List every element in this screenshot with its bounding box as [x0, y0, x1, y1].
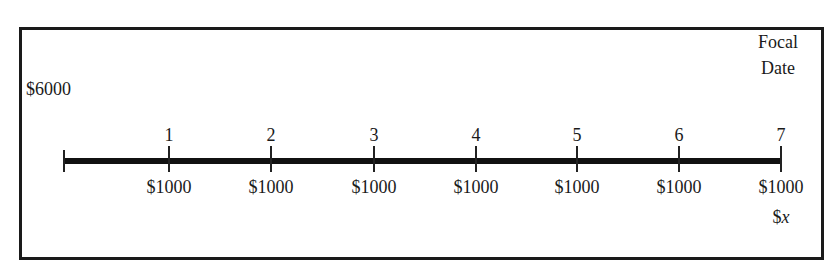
- focal-date-label: Focal Date: [758, 29, 798, 81]
- diagram-frame: [19, 27, 824, 260]
- period-label: 6: [675, 126, 684, 144]
- tick-4: [475, 146, 477, 172]
- period-label: 1: [165, 126, 174, 144]
- payment-label: $1000: [249, 178, 294, 196]
- period-label: 4: [472, 126, 481, 144]
- tick-7: [780, 146, 782, 172]
- payment-label: $1000: [454, 178, 499, 196]
- tick-6: [678, 146, 680, 172]
- payment-label: $1000: [759, 178, 804, 196]
- tick-1: [168, 146, 170, 172]
- tick-3: [373, 146, 375, 172]
- focal-date-line2: Date: [758, 55, 798, 81]
- period-label: 3: [370, 126, 379, 144]
- time-line-axis: [64, 158, 781, 164]
- unknown-payment-label: $x: [773, 208, 790, 226]
- payment-label: $1000: [555, 178, 600, 196]
- tick-5: [576, 146, 578, 172]
- tick-2: [270, 146, 272, 172]
- payment-label: $1000: [657, 178, 702, 196]
- period-label: 7: [777, 126, 786, 144]
- period-label: 5: [573, 126, 582, 144]
- period-label: 2: [267, 126, 276, 144]
- tick-0: [63, 150, 65, 172]
- focal-date-line1: Focal: [758, 29, 798, 55]
- payment-label: $1000: [147, 178, 192, 196]
- present-value-label: $6000: [26, 80, 71, 98]
- payment-label: $1000: [352, 178, 397, 196]
